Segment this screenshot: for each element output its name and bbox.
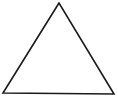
triangle-diagram — [0, 0, 118, 99]
triangle-shape — [3, 3, 114, 94]
